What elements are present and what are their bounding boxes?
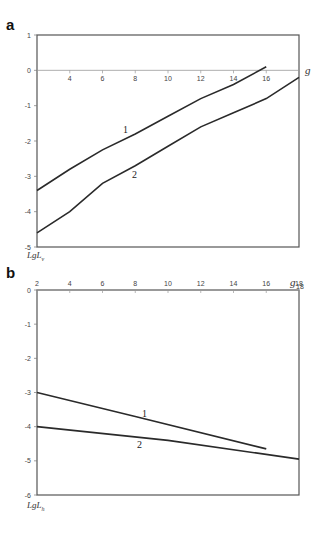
x-tick-label: 12 xyxy=(197,75,205,82)
x-tick-label: 12 xyxy=(197,280,205,287)
curve-label-2: 2 xyxy=(132,169,137,180)
x-tick-label: 8 xyxy=(133,75,137,82)
x-tick-label: 2 xyxy=(35,280,39,287)
chart-canvas: 4681012141610-1-2-3-4-5g1224681012141618… xyxy=(0,0,320,537)
x-tick-label: 6 xyxy=(101,280,105,287)
y-tick-label: -4 xyxy=(25,423,31,430)
y-tick-label: 0 xyxy=(27,287,31,294)
y-tick-label: -2 xyxy=(25,138,31,145)
x-tick-label: 6 xyxy=(101,75,105,82)
x-tick-label: 10 xyxy=(164,75,172,82)
x-axis-label: g xyxy=(305,64,311,76)
curve-1 xyxy=(37,393,266,449)
y-tick-label: -4 xyxy=(25,208,31,215)
y-tick-label: 0 xyxy=(27,67,31,74)
panel-a-ylabel: LgLv xyxy=(27,250,44,262)
y-tick-label: -5 xyxy=(25,457,31,464)
y-tick-label: -6 xyxy=(25,492,31,499)
y-tick-label: -2 xyxy=(25,355,31,362)
y-tick-label: 1 xyxy=(27,32,31,39)
panel-b-ylabel: LgLh xyxy=(27,500,45,512)
curve-label-2: 2 xyxy=(137,439,142,450)
x-tick-label: 8 xyxy=(133,280,137,287)
x-tick-label: 16 xyxy=(262,75,270,82)
curve-2 xyxy=(37,427,299,459)
curve-label-1: 1 xyxy=(142,408,147,419)
x-tick-label: 16 xyxy=(262,280,270,287)
x-tick-label-18: 18 xyxy=(296,283,304,290)
y-tick-label: -1 xyxy=(25,102,31,109)
curve-2 xyxy=(37,77,299,232)
x-tick-label: 4 xyxy=(68,280,72,287)
x-tick-label: 4 xyxy=(68,75,72,82)
x-tick-label: 14 xyxy=(230,75,238,82)
x-tick-label: 14 xyxy=(230,280,238,287)
plot-frame xyxy=(37,290,299,495)
y-tick-label: -3 xyxy=(25,173,31,180)
y-tick-label: -3 xyxy=(25,389,31,396)
y-tick-label: -1 xyxy=(25,321,31,328)
curve-1 xyxy=(37,67,266,191)
x-tick-label: 10 xyxy=(164,280,172,287)
plot-frame xyxy=(37,35,299,247)
curve-label-1: 1 xyxy=(123,124,128,135)
